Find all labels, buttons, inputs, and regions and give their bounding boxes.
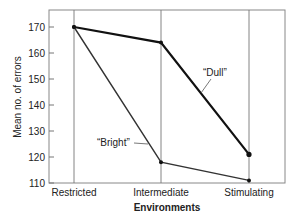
y-tick-label: 110 [29, 178, 45, 189]
y-tick-label: 140 [28, 100, 45, 111]
x-tick-label: Intermediate [133, 187, 189, 198]
y-axis: 110120130140150160170 [28, 22, 54, 189]
x-axis: RestrictedIntermediateStimulating [51, 187, 273, 198]
y-tick-label: 160 [28, 48, 45, 59]
annotations: “Dull” “Bright” [97, 67, 227, 148]
y-tick-label: 170 [28, 22, 45, 33]
bright-leader-line [134, 143, 148, 144]
y-tick-label: 120 [28, 152, 45, 163]
plot-frame [49, 10, 285, 183]
dull-label: “Dull” [203, 67, 227, 78]
data-point [247, 178, 251, 182]
y-axis-title: Mean no. of errors [12, 56, 23, 138]
data-point [159, 41, 163, 45]
dull-leader-line [201, 79, 211, 93]
y-tick-label: 130 [28, 126, 45, 137]
series-line-1 [74, 27, 249, 180]
data-point [159, 160, 163, 164]
data-point [246, 152, 251, 157]
data-point [72, 25, 76, 29]
line-chart: 110120130140150160170 RestrictedIntermed… [0, 0, 301, 219]
category-gridlines [74, 10, 249, 183]
bright-label: “Bright” [97, 137, 130, 148]
x-tick-label: Stimulating [224, 187, 273, 198]
series-lines [72, 25, 252, 182]
x-axis-title: Environments [134, 202, 201, 213]
y-tick-label: 150 [28, 74, 45, 85]
series-line-0 [74, 27, 249, 154]
x-tick-label: Restricted [51, 187, 96, 198]
